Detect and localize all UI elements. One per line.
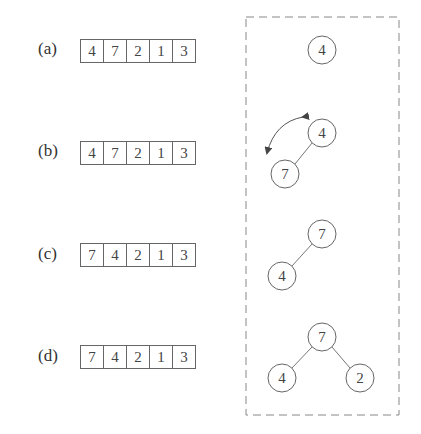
svg-text:4: 4 — [278, 370, 286, 386]
svg-text:2: 2 — [356, 370, 364, 386]
tree-edge — [292, 347, 312, 368]
tree-edge — [295, 143, 312, 164]
dashed-border — [246, 17, 399, 415]
svg-text:7: 7 — [281, 166, 289, 182]
svg-text:4: 4 — [278, 268, 286, 284]
tree-edge — [332, 347, 350, 368]
svg-text:4: 4 — [318, 42, 326, 58]
tree-node: 7 — [308, 323, 336, 351]
svg-text:7: 7 — [318, 329, 326, 345]
svg-text:7: 7 — [318, 226, 326, 242]
tree-node: 4 — [308, 119, 336, 147]
tree-node: 4 — [308, 36, 336, 64]
tree-node: 4 — [268, 262, 296, 290]
swap-arrow-icon — [267, 117, 303, 153]
tree-node: 7 — [271, 160, 299, 188]
svg-text:4: 4 — [318, 125, 326, 141]
tree-node: 4 — [268, 364, 296, 392]
tree-node: 7 — [308, 220, 336, 248]
tree-edge — [292, 244, 312, 266]
tree-node: 2 — [346, 364, 374, 392]
tree-panel: 4 4 7 7 4 7 4 2 — [0, 0, 421, 434]
